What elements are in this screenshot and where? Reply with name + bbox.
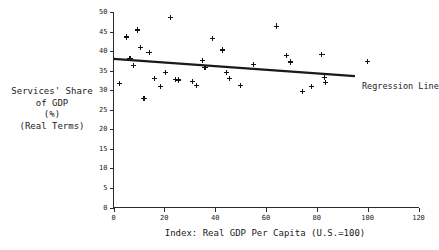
y-tick-label: 10 xyxy=(82,164,108,172)
regression-line xyxy=(114,59,355,76)
data-point xyxy=(131,63,136,68)
data-point xyxy=(194,83,199,88)
data-point xyxy=(146,50,151,55)
data-point xyxy=(284,53,289,58)
data-point xyxy=(227,76,232,81)
x-axis-title: Index: Real GDP Per Capita (U.S.=100) xyxy=(100,228,430,239)
y-axis-title-line-2: of GDP xyxy=(2,98,102,110)
data-point xyxy=(158,84,163,89)
y-axis-title: Services' Share of GDP (%) (Real Terms) xyxy=(2,86,102,132)
data-point xyxy=(238,83,243,88)
data-point xyxy=(190,79,195,84)
data-point xyxy=(251,62,256,67)
axes xyxy=(114,12,420,208)
x-tick-label: 40 xyxy=(203,214,227,222)
data-point xyxy=(200,58,205,63)
x-axis-ticks xyxy=(114,208,419,212)
data-point xyxy=(176,77,181,82)
data-point xyxy=(220,47,225,52)
y-tick-label: 50 xyxy=(82,8,108,16)
data-point xyxy=(322,75,327,80)
y-axis-ticks xyxy=(110,13,114,209)
y-tick-label: 5 xyxy=(82,184,108,192)
x-tick-label: 80 xyxy=(305,214,329,222)
data-point xyxy=(210,36,215,41)
y-tick-label: 40 xyxy=(82,47,108,55)
data-point xyxy=(300,89,305,94)
y-tick-label: 15 xyxy=(82,145,108,153)
x-tick-label: 60 xyxy=(254,214,278,222)
data-point xyxy=(135,27,140,32)
data-point xyxy=(323,80,328,85)
data-point xyxy=(163,70,168,75)
regression-line-segment xyxy=(114,59,355,76)
y-tick-label: 45 xyxy=(82,28,108,36)
data-points xyxy=(117,15,370,101)
y-axis-title-line-4: (Real Terms) xyxy=(2,121,102,133)
data-point xyxy=(224,70,229,75)
data-point xyxy=(138,45,143,50)
x-tick-label: 0 xyxy=(102,214,126,222)
y-tick-label: 35 xyxy=(82,67,108,75)
data-point xyxy=(173,77,178,82)
x-tick-label: 100 xyxy=(356,214,380,222)
x-tick-label: 120 xyxy=(407,214,431,222)
data-point xyxy=(309,84,314,89)
y-axis-title-line-1: Services' Share xyxy=(2,86,102,98)
y-tick-label: 0 xyxy=(82,204,108,212)
regression-line-label: Regression Line xyxy=(362,81,439,91)
y-axis-title-line-3: (%) xyxy=(2,109,102,121)
data-point xyxy=(168,15,173,20)
x-tick-label: 20 xyxy=(152,214,176,222)
data-point xyxy=(365,59,370,64)
data-point xyxy=(319,52,324,57)
data-point xyxy=(288,59,293,64)
data-point xyxy=(117,81,122,86)
data-point xyxy=(141,96,146,101)
data-point xyxy=(152,76,157,81)
data-point xyxy=(274,23,279,28)
data-point xyxy=(124,34,129,39)
